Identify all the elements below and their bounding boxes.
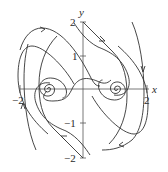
arrow-bottom-right — [119, 142, 124, 147]
y-tick-label-neg2: −2 — [64, 152, 76, 164]
y-tick-label-2: 2 — [70, 16, 76, 28]
x-tick-label-neg2: −2 — [12, 94, 24, 106]
trajectory-far-right — [102, 22, 144, 150]
trajectory-top-left-arc — [20, 28, 100, 86]
y-tick-label-1: 1 — [72, 50, 78, 62]
y-tick-label-neg1: −1 — [64, 117, 76, 129]
y-axis-label: y — [78, 6, 84, 18]
x-tick-label-2: 2 — [144, 94, 150, 106]
trajectory-left-mid-loop — [35, 83, 90, 155]
trajectory-left-inner-loop — [44, 79, 111, 101]
trajectory-far-left — [24, 44, 36, 150]
arrow-bottom-diagonal — [61, 136, 67, 141]
phase-portrait: y x −2 2 2 1 −1 −2 — [0, 0, 168, 172]
x-axis-label: x — [151, 83, 157, 95]
trajectory-right-mid-loop — [74, 23, 129, 95]
